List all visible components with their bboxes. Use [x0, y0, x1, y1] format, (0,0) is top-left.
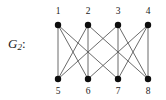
bipartite-graph-canvas: 12345678	[0, 0, 166, 100]
graph-node	[85, 76, 91, 82]
graph-figure: G2: 12345678	[0, 0, 166, 100]
graph-node-label: 4	[146, 6, 151, 16]
graph-node	[55, 22, 61, 28]
nodes-group	[55, 22, 151, 82]
edges-group	[58, 25, 148, 79]
graph-node	[115, 22, 121, 28]
graph-node-label: 2	[86, 6, 91, 16]
graph-node	[115, 76, 121, 82]
graph-node-label: 6	[86, 86, 91, 96]
graph-node-label: 8	[146, 86, 151, 96]
graph-node-label: 5	[56, 86, 61, 96]
graph-node-label: 7	[116, 86, 121, 96]
graph-node	[85, 22, 91, 28]
node-labels-group: 12345678	[56, 6, 151, 96]
graph-node	[145, 76, 151, 82]
graph-node-label: 1	[56, 6, 61, 16]
graph-node	[145, 22, 151, 28]
graph-node	[55, 76, 61, 82]
graph-node-label: 3	[116, 6, 121, 16]
